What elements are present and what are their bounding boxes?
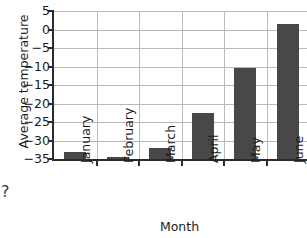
y-axis-tick (48, 121, 54, 123)
x-axis-tick-label: May (248, 137, 263, 163)
x-axis-tick-label: February (121, 108, 136, 163)
y-axis-tick-label: −30 (16, 135, 50, 147)
gridline-vertical (182, 11, 183, 159)
y-axis-tick (48, 158, 54, 160)
gridline-horizontal (54, 67, 307, 68)
gridline-horizontal (54, 85, 307, 86)
gridline-horizontal (54, 48, 307, 49)
x-axis-tick-label: April (206, 134, 221, 163)
y-axis-tick (48, 29, 54, 31)
y-axis-tick-label: −10 (16, 61, 50, 73)
y-axis-tick (48, 10, 54, 12)
y-axis-tick-label: −25 (16, 116, 50, 128)
y-axis-tick-label: −15 (16, 79, 50, 91)
gridline-horizontal (54, 104, 307, 105)
gridline-horizontal (54, 11, 307, 12)
stray-glyph: ? (1, 182, 10, 201)
x-axis-tick-label: March (163, 125, 178, 163)
x-axis-title: Month (52, 219, 307, 234)
x-axis-tick-label: June (291, 136, 306, 163)
gridline-horizontal (54, 30, 307, 31)
y-axis-tick (48, 66, 54, 68)
x-axis-tick-label: January (78, 116, 93, 163)
y-axis-tick (48, 103, 54, 105)
y-axis-tick-label: 0 (16, 24, 50, 36)
y-axis-tick-label: −35 (16, 153, 50, 165)
y-axis-tick (48, 140, 54, 142)
x-axis-tick-labels: JanuaryFebruaryMarchAprilMayJune (52, 161, 307, 219)
gridline-vertical (139, 11, 140, 159)
y-axis-tick-labels: 50−5−10−15−20−25−30−35 (16, 0, 50, 165)
y-axis-tick-label: −5 (16, 42, 50, 54)
bar-chart: Average temperature 50−5−10−15−20−25−30−… (0, 0, 307, 238)
y-axis-tick (48, 84, 54, 86)
y-axis-tick-label: 5 (16, 5, 50, 17)
gridline-vertical (97, 11, 98, 159)
y-axis-tick (48, 47, 54, 49)
y-axis-tick-label: −20 (16, 98, 50, 110)
gridline-vertical (267, 11, 268, 159)
gridline-vertical (224, 11, 225, 159)
